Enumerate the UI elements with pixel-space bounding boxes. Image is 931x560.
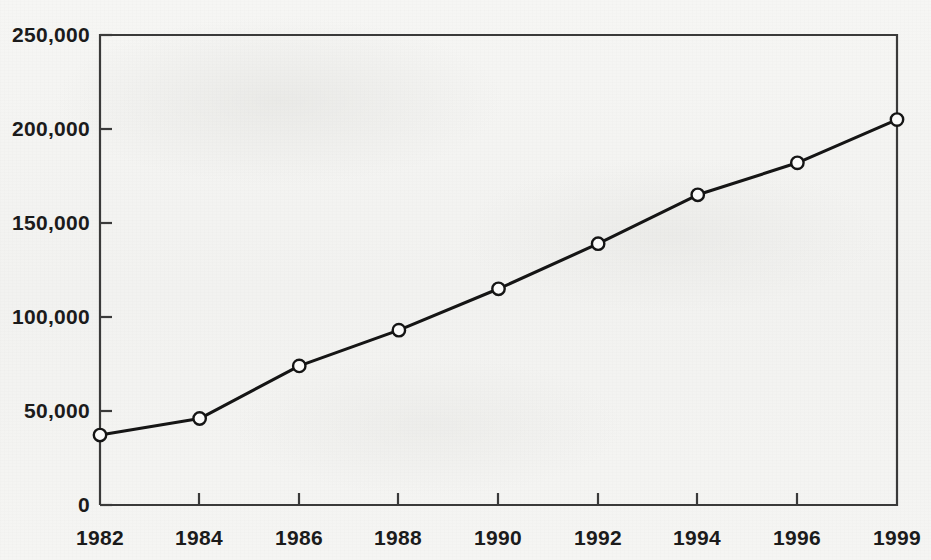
data-point-1999	[891, 113, 903, 125]
data-point-1988	[393, 324, 405, 336]
y-tick-label-0: 0	[78, 493, 90, 516]
y-tick-label-100000: 100,000	[12, 305, 90, 328]
x-axis-labels: 1982 1984 1986 1988 1990 1992 1994 1996 …	[76, 526, 921, 549]
data-point-1996	[791, 157, 803, 169]
y-tick-label-200000: 200,000	[12, 117, 90, 140]
x-tick-label-1986: 1986	[275, 526, 323, 549]
x-tick-label-1999: 1999	[873, 526, 921, 549]
y-tick-label-250000: 250,000	[12, 23, 90, 46]
line-chart: 0 50,000 100,000 150,000 200,000 250,000…	[0, 0, 931, 560]
x-tick-label-1988: 1988	[374, 526, 422, 549]
x-tick-label-1984: 1984	[175, 526, 223, 549]
x-tick-label-1982: 1982	[76, 526, 124, 549]
y-tick-label-150000: 150,000	[12, 211, 90, 234]
data-point-1990	[492, 283, 504, 295]
data-point-1986	[293, 360, 305, 372]
data-point-1992	[592, 237, 604, 249]
x-tick-label-1992: 1992	[574, 526, 622, 549]
data-point-1994	[692, 189, 704, 201]
y-tick-label-50000: 50,000	[24, 399, 90, 422]
data-point-1982	[94, 429, 106, 441]
x-tick-label-1990: 1990	[474, 526, 522, 549]
series-markers	[94, 113, 903, 441]
data-point-1984	[193, 412, 205, 424]
plot-frame	[100, 35, 897, 505]
x-tick-label-1996: 1996	[773, 526, 821, 549]
x-tick-label-1994: 1994	[673, 526, 721, 549]
y-axis-labels: 0 50,000 100,000 150,000 200,000 250,000	[12, 23, 90, 516]
series-line	[100, 120, 897, 435]
x-axis-ticks	[199, 493, 797, 505]
chart-page: 0 50,000 100,000 150,000 200,000 250,000…	[0, 0, 931, 560]
